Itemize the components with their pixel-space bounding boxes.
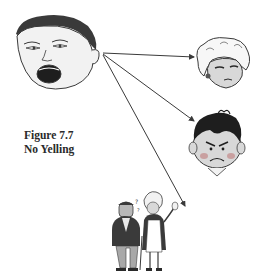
arrow-to-woman <box>103 53 194 57</box>
figure-title: No Yelling <box>24 142 74 156</box>
figure-caption: Figure 7.7 No Yelling <box>24 128 74 156</box>
annoyed-woman-face <box>197 38 250 88</box>
arrows <box>103 53 194 206</box>
svg-text:?: ? <box>135 198 138 205</box>
elderly-couple: ? ? <box>112 192 178 271</box>
figure-number: Figure 7.7 <box>24 128 74 142</box>
svg-text:?: ? <box>137 207 140 213</box>
elderly-woman <box>142 192 178 271</box>
yelling-child-face <box>16 15 99 89</box>
arrow-to-couple <box>103 55 185 206</box>
arrow-to-boy <box>103 54 194 121</box>
angry-boy-face <box>189 110 245 176</box>
